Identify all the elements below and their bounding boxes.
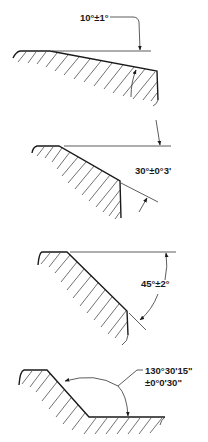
section-hatch — [18, 52, 157, 101]
angle-label: 30°±0°3' — [135, 165, 171, 176]
dimension-arc-left — [65, 377, 118, 386]
part-outline — [32, 146, 121, 218]
part-outline — [19, 370, 165, 417]
part-outline — [38, 252, 128, 335]
dimension-arc — [118, 386, 128, 416]
angle-label: 45°±2° — [141, 278, 170, 289]
view-4: 130°30'15" ±0°0'30" — [19, 365, 193, 434]
extension-line-slope — [129, 313, 146, 330]
view-2: 30°±0°3' — [32, 120, 171, 219]
view-3: 45°±2° — [38, 252, 176, 345]
dimension-arc-lower — [140, 294, 158, 320]
leader-line — [110, 17, 140, 50]
dimension-arrow-bottom — [139, 198, 147, 212]
angle-label-line1: 130°30'15" — [145, 365, 193, 376]
part-outline-break — [153, 100, 158, 106]
section-hatch — [22, 371, 162, 434]
part-outline-break — [122, 335, 128, 345]
dimension-arrow-top — [156, 120, 160, 145]
part-outline-break — [160, 417, 165, 425]
angle-label-line2: ±0°0'30" — [145, 377, 182, 388]
view-1: 10°±1° — [13, 12, 158, 106]
extension-line-slope — [121, 183, 158, 202]
angular-dimension-drawing: 10°±1° 30°±0°3' — [0, 0, 208, 442]
dimension-arc-upper — [165, 253, 167, 280]
part-outline — [13, 51, 158, 100]
angle-label: 10°±1° — [80, 12, 109, 23]
leader-line — [118, 370, 143, 386]
section-hatch — [41, 253, 127, 338]
